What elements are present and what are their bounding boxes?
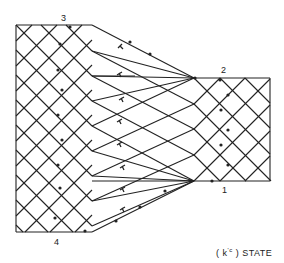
- caption-close: ) STATE: [233, 248, 273, 258]
- corner-label-3: 3: [61, 14, 66, 23]
- fan-region: [92, 25, 270, 232]
- corner-label-4: 4: [54, 238, 59, 247]
- characteristic-mesh-diagram: [0, 0, 284, 263]
- state-caption: ( k'c ) STATE: [216, 247, 272, 258]
- corner-label-2: 2: [221, 66, 226, 75]
- caption-open: ( k: [216, 248, 228, 258]
- right-uniform-region: [194, 78, 271, 181]
- corner-label-1: 1: [222, 186, 227, 195]
- left-uniform-region: [16, 25, 92, 232]
